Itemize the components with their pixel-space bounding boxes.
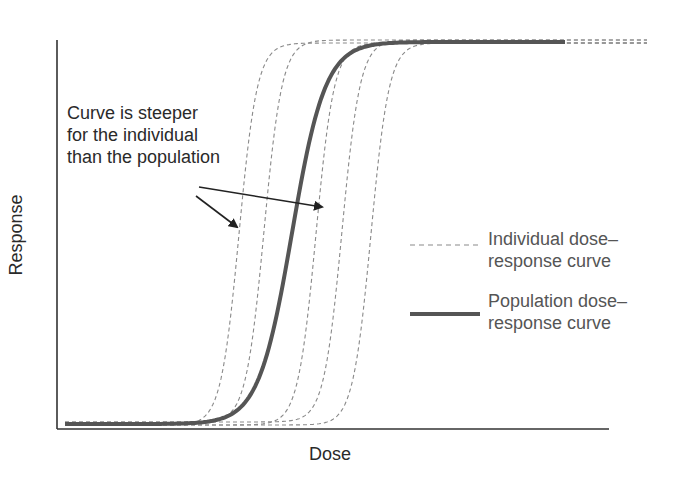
y-axis-label: Response [6,194,27,275]
annotation-arrows [196,187,322,227]
annotation-line-3: than the population [67,146,220,168]
annotation-line-2: for the individual [67,124,220,146]
legend-population-label: Population dose– response curve [488,290,627,334]
annotation-arrow [199,187,322,207]
annotation-text: Curve is steeper for the individual than… [67,102,220,168]
legend-individual-line-2: response curve [488,250,618,272]
legend-population-line-1: Population dose– [488,290,627,312]
x-axis-label: Dose [309,443,351,465]
legend-population-line-2: response curve [488,312,627,334]
annotation-arrow [196,196,237,227]
annotation-line-1: Curve is steeper [67,102,220,124]
legend-individual-line-1: Individual dose– [488,228,618,250]
legend-individual-label: Individual dose– response curve [488,228,618,272]
